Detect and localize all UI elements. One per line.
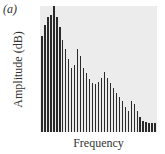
bar <box>145 122 147 132</box>
y-axis-label: Amplitude (dB) <box>11 20 26 120</box>
bar <box>131 101 133 133</box>
bar-series <box>41 6 156 132</box>
bar <box>125 107 127 132</box>
bar <box>44 25 46 132</box>
bar <box>71 68 73 132</box>
bar <box>80 56 82 132</box>
bar <box>98 82 100 132</box>
bar <box>139 117 141 132</box>
panel-label: (a) <box>3 2 17 17</box>
bar <box>92 83 94 132</box>
bar <box>142 121 144 132</box>
bar <box>122 101 124 133</box>
bar <box>56 17 58 132</box>
bar <box>89 79 91 132</box>
bar <box>107 78 109 132</box>
bar <box>113 88 115 132</box>
bar <box>41 36 43 132</box>
bar <box>86 73 88 132</box>
bar <box>134 104 136 132</box>
bar <box>148 123 150 132</box>
bar <box>65 49 67 132</box>
bar <box>104 72 106 132</box>
bar <box>47 17 49 132</box>
plot-area <box>40 6 157 132</box>
bar <box>151 123 153 132</box>
bar <box>119 97 121 132</box>
bar <box>101 78 103 132</box>
bar <box>95 84 97 132</box>
bar <box>83 68 85 132</box>
bar <box>154 123 156 132</box>
bar <box>53 6 55 132</box>
bar <box>116 93 118 132</box>
bar <box>74 65 76 132</box>
bar <box>110 83 112 132</box>
bar <box>137 111 139 132</box>
bar <box>50 15 52 132</box>
bar <box>59 27 61 132</box>
x-axis-label: Frequency <box>40 136 157 151</box>
bar <box>68 59 70 132</box>
bar <box>62 40 64 132</box>
bar <box>77 49 79 132</box>
bar <box>128 111 130 132</box>
